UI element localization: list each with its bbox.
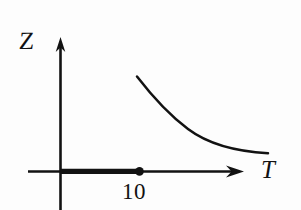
x-tick-label-10: 10 — [122, 180, 146, 203]
z-axis-label: Z — [18, 28, 35, 53]
closed-endpoint-dot — [135, 167, 144, 176]
decay-curve — [137, 77, 268, 154]
math-figure: Z T 10 — [0, 0, 301, 210]
t-axis-label: T — [261, 157, 275, 182]
figure-canvas — [0, 0, 301, 210]
